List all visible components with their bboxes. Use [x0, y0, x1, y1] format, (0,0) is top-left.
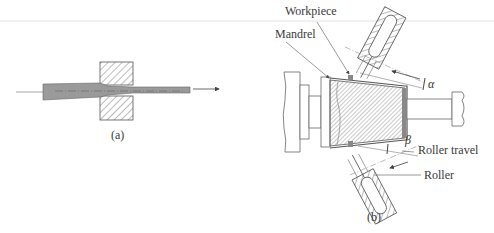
headstock-plate	[283, 72, 300, 152]
diagram-canvas	[0, 0, 494, 233]
workpiece-contact-bottom	[348, 141, 353, 147]
label-roller: Roller	[424, 168, 454, 183]
label-mandrel: Mandrel	[275, 27, 316, 42]
angle-beta: β	[405, 133, 411, 148]
label-workpiece: Workpiece	[285, 4, 337, 19]
roller-travel-arrow-lower	[390, 162, 408, 168]
label-roller-travel: Roller travel	[418, 143, 478, 158]
angle-alpha: α	[428, 77, 434, 92]
figure-a-tube-drawing	[16, 62, 219, 120]
workpiece-leader	[317, 22, 349, 74]
die-upper	[100, 62, 133, 85]
tailstock-head	[452, 92, 464, 126]
roller-travel-arrow-upper	[392, 71, 420, 79]
upper-roller	[350, 7, 406, 84]
tailstock-rod	[407, 99, 452, 119]
caption-a: (a)	[111, 128, 124, 143]
mandrel-body	[330, 80, 405, 146]
caption-b: (b)	[367, 210, 381, 225]
workpiece-contact-top	[348, 75, 353, 80]
die-lower	[100, 96, 133, 120]
